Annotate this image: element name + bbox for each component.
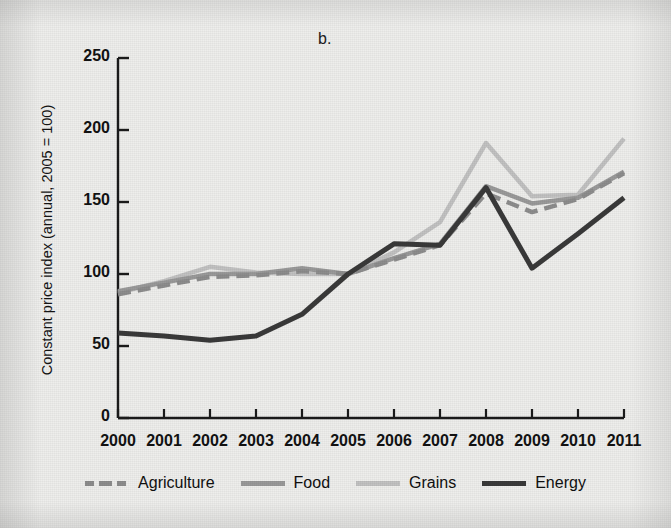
y-axis-tick-label: 100	[64, 263, 110, 281]
x-axis-tick-label: 2000	[94, 432, 142, 450]
x-axis-tick-label: 2011	[600, 432, 648, 450]
panel-label: b.	[318, 30, 331, 48]
series-line-grains	[118, 139, 624, 293]
legend-item-food[interactable]: Food	[241, 474, 330, 492]
x-axis-tick-label: 2007	[416, 432, 464, 450]
x-axis-tick-label: 2002	[186, 432, 234, 450]
chart-figure: b. Constant price index (annual, 2005 = …	[0, 0, 671, 528]
legend-swatch-food	[241, 481, 285, 486]
x-axis-tick-label: 2004	[278, 432, 326, 450]
legend-swatch-agriculture	[85, 481, 129, 486]
legend-item-energy[interactable]: Energy	[482, 474, 586, 492]
y-axis-tick-label: 200	[64, 119, 110, 137]
y-axis-ticks	[118, 58, 129, 418]
y-axis-tick-label: 0	[64, 407, 110, 425]
legend-swatch-energy	[482, 481, 526, 486]
x-axis-tick-label: 2009	[508, 432, 556, 450]
legend-label-grains: Grains	[409, 474, 456, 492]
x-axis-tick-label: 2006	[370, 432, 418, 450]
legend-item-grains[interactable]: Grains	[356, 474, 456, 492]
y-axis-title: Constant price index (annual, 2005 = 100…	[39, 45, 55, 435]
legend-label-energy: Energy	[535, 474, 586, 492]
legend-swatch-grains	[356, 481, 400, 486]
x-axis-tick-label: 2008	[462, 432, 510, 450]
y-axis-tick-label: 250	[64, 47, 110, 65]
series-lines	[118, 139, 624, 341]
legend-label-food: Food	[294, 474, 330, 492]
x-axis-tick-label: 2001	[140, 432, 188, 450]
x-axis-ticks	[118, 409, 624, 418]
legend-item-agriculture[interactable]: Agriculture	[85, 474, 214, 492]
x-axis-tick-label: 2005	[324, 432, 372, 450]
y-axis-tick-label: 150	[64, 191, 110, 209]
x-axis-tick-label: 2003	[232, 432, 280, 450]
x-axis-tick-label: 2010	[554, 432, 602, 450]
chart-legend: AgricultureFoodGrainsEnergy	[0, 474, 671, 492]
legend-label-agriculture: Agriculture	[138, 474, 214, 492]
y-axis-tick-label: 50	[64, 335, 110, 353]
axis-lines	[118, 58, 624, 418]
